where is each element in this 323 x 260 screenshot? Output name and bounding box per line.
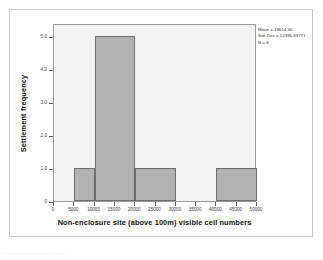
statistics-annotation: Mean = 19614.50 Std. Dev = 12391.33771 N… [258, 27, 305, 46]
stat-std-dev: Std. Dev = 12391.33771 [258, 33, 305, 39]
figure-card: Settlement frequency 01.02.03.04.05.0 05… [9, 9, 313, 237]
x-axis-tick [114, 202, 115, 206]
x-axis-tick-label: 0 [52, 208, 55, 213]
x-axis-tick [155, 202, 156, 206]
x-axis-tick-label: 40000 [209, 208, 222, 213]
x-axis: 0500010000150002000025000300003500040000… [53, 202, 256, 203]
x-axis-tick-label: 50000 [250, 208, 263, 213]
x-axis-tick-label: 15000 [108, 208, 121, 213]
x-axis-tick [53, 202, 54, 206]
x-axis-tick-label: 35000 [189, 208, 202, 213]
y-axis-tick-label: 5.0 [41, 35, 47, 40]
x-axis-tick [195, 202, 196, 206]
x-axis-tick-label: 20000 [128, 208, 141, 213]
x-axis-title: Non-enclosure site (above 100m) visible … [53, 218, 256, 227]
y-axis-tick-label: 0 [44, 200, 47, 205]
y-axis-tick-label: 1.0 [41, 167, 47, 172]
x-axis-tick [236, 202, 237, 206]
y-axis-tick-label: 3.0 [41, 101, 47, 106]
x-axis-tick-label: 25000 [148, 208, 161, 213]
histogram-bar [74, 168, 94, 201]
page-bleed-text: ... ... .. .. ...... .. ...... .. ... ..… [2, 249, 321, 256]
y-axis-title: Settlement frequency [18, 24, 30, 202]
x-axis-tick [256, 202, 257, 206]
histogram-bar [95, 36, 136, 201]
x-axis-tick-label: 30000 [168, 208, 181, 213]
histogram-figure: Settlement frequency 01.02.03.04.05.0 05… [0, 0, 323, 260]
x-axis-tick [215, 202, 216, 206]
x-axis-tick [94, 202, 95, 206]
stat-n: N = 8 [258, 40, 305, 46]
x-axis-tick-label: 10000 [87, 208, 100, 213]
x-axis-tick [73, 202, 74, 206]
x-axis-tick [134, 202, 135, 206]
y-axis-tick-label: 2.0 [41, 134, 47, 139]
y-axis-title-label: Settlement frequency [20, 74, 29, 152]
x-axis-tick [175, 202, 176, 206]
plot-area [53, 24, 256, 202]
bars-container [54, 25, 255, 201]
y-axis-tick-label: 4.0 [41, 68, 47, 73]
x-axis-tick-label: 5000 [68, 208, 78, 213]
histogram-bar [216, 168, 257, 201]
x-axis-tick-label: 45000 [229, 208, 242, 213]
histogram-bar [135, 168, 176, 201]
